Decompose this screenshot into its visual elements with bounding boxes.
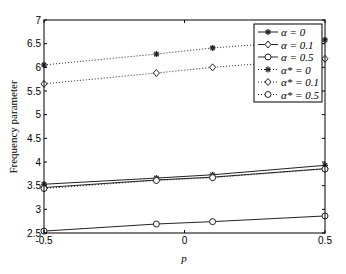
- y-tick-label: 5: [35, 109, 41, 120]
- y-tick-label: 3.5: [27, 180, 41, 191]
- y-axis-label: Frequency parameter: [7, 80, 19, 173]
- star-marker: [265, 67, 271, 73]
- x-tick-label: 0: [182, 235, 188, 246]
- star-marker: [153, 51, 159, 57]
- circle-marker: [265, 92, 271, 98]
- circle-marker: [210, 219, 216, 225]
- legend: α = 0α = 0.1α = 0.5α* = 0α* = 0.1α* = 0.…: [254, 24, 322, 102]
- y-tick-label: 7: [35, 15, 41, 26]
- y-tick-label: 6: [35, 62, 41, 73]
- y-tick-label: 3: [35, 204, 41, 215]
- x-tick-label: -0.5: [35, 235, 53, 246]
- frequency-parameter-chart: 2.533.544.555.566.57-0.500.5 Frequency p…: [0, 0, 346, 274]
- x-axis-label: p: [180, 252, 187, 264]
- y-tick-label: 4.5: [27, 133, 41, 144]
- series-line: [41, 162, 328, 187]
- star-marker: [265, 29, 271, 35]
- diamond-marker: [153, 70, 159, 77]
- legend-label: α* = 0.5: [281, 89, 319, 101]
- legend-label: α* = 0.1: [281, 76, 319, 88]
- star-marker: [210, 45, 216, 51]
- legend-label: α = 0.5: [281, 51, 314, 63]
- y-tick-label: 5.5: [27, 86, 41, 97]
- circle-marker: [210, 175, 216, 181]
- legend-label: α* = 0: [281, 64, 311, 76]
- legend-label: α = 0: [281, 26, 306, 38]
- x-tick-label: 0.5: [318, 235, 332, 246]
- y-tick-label: 6.5: [27, 38, 41, 49]
- diamond-marker: [210, 64, 216, 71]
- legend-label: α = 0.1: [281, 39, 313, 51]
- circle-marker: [153, 221, 159, 227]
- circle-marker: [153, 177, 159, 183]
- circle-marker: [265, 54, 271, 60]
- y-tick-label: 4: [35, 157, 41, 168]
